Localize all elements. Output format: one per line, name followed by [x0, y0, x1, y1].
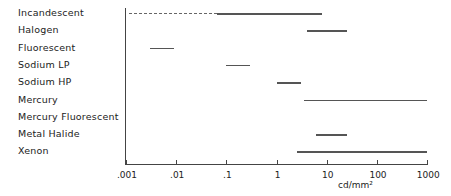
range-bar	[316, 134, 347, 136]
category-label: Mercury	[18, 94, 58, 105]
tick-mark	[226, 160, 227, 165]
range-bar	[297, 151, 428, 153]
tick-mark	[327, 160, 328, 165]
tick-mark	[126, 160, 127, 165]
tick-mark	[377, 160, 378, 165]
range-bar	[307, 30, 347, 32]
range-bar-dashed	[129, 13, 217, 14]
tick-label: 100	[369, 170, 386, 180]
x-axis-unit: cd/mm²	[338, 180, 373, 190]
tick-mark	[427, 160, 428, 165]
tick-label: 1000	[417, 170, 440, 180]
tick-label: .01	[170, 170, 184, 180]
category-label: Incandescent	[18, 7, 84, 18]
category-label: Fluorescent	[18, 42, 75, 53]
category-label: Metal Halide	[18, 128, 80, 139]
tick-mark	[277, 160, 278, 165]
category-label: Sodium LP	[18, 59, 70, 70]
category-label: Xenon	[18, 145, 49, 156]
range-bar	[226, 65, 250, 67]
range-bar	[217, 13, 322, 15]
category-label: Sodium HP	[18, 76, 71, 87]
tick-label: 1	[275, 170, 281, 180]
tick-label: 10	[322, 170, 333, 180]
range-bar	[277, 82, 301, 84]
category-label: Halogen	[18, 24, 59, 35]
tick-label: .001	[117, 170, 137, 180]
category-label: Mercury Fluorescent	[18, 111, 119, 122]
range-bar	[150, 48, 174, 50]
y-axis	[125, 8, 126, 164]
tick-mark	[176, 160, 177, 165]
tick-label: .1	[223, 170, 232, 180]
range-bar	[304, 100, 427, 102]
